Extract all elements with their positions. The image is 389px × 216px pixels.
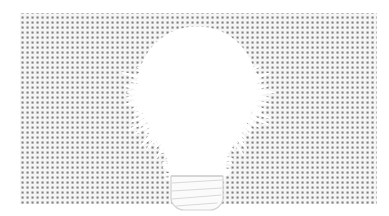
neck-bristle — [162, 129, 170, 130]
neck-bristle — [220, 173, 228, 174]
light-ray-bristle — [254, 85, 259, 86]
neck-bristle — [161, 125, 170, 126]
neck-bristle — [221, 159, 230, 160]
neck-bristle — [162, 122, 171, 123]
light-ray-bristle — [132, 84, 141, 85]
light-ray-bristle — [133, 96, 140, 97]
light-ray-bristle — [254, 87, 262, 88]
light-ray-bristle — [254, 99, 261, 100]
light-bulb-illustration: Light bulb idea graphic A light bulb dra… — [0, 0, 389, 216]
bulb-screw-base — [171, 176, 223, 210]
light-ray-bristle — [185, 148, 186, 151]
light-ray-bristle — [204, 149, 205, 154]
light-ray-bristle — [190, 149, 191, 154]
light-ray-bristle — [253, 82, 258, 83]
illustration-canvas: Light bulb idea graphic A light bulb dra… — [0, 0, 389, 216]
light-ray-bristle — [206, 148, 207, 154]
light-ray-bristle — [201, 149, 202, 157]
neck-bristle — [222, 142, 228, 143]
light-ray-bristle — [134, 99, 140, 100]
light-ray-bristle — [130, 87, 140, 88]
light-ray-bristle — [187, 148, 188, 153]
neck-bristle — [162, 136, 171, 137]
